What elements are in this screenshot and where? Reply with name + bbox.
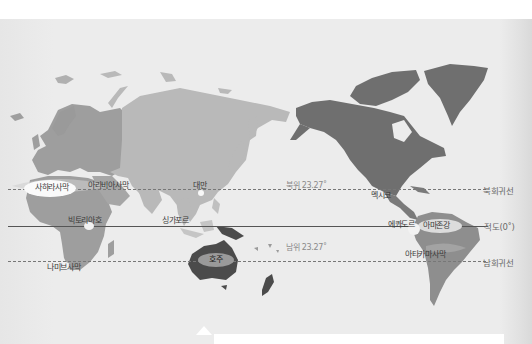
pacific-islands xyxy=(254,244,279,253)
label-tropic-of-capricorn: 남회귀선 xyxy=(483,258,514,268)
india xyxy=(138,188,162,214)
label-lat-south: 남위 23.27˚ xyxy=(286,243,327,253)
label-victoria: 빅토리아호 xyxy=(68,216,102,226)
madagascar xyxy=(108,240,114,258)
severnaya xyxy=(160,72,176,82)
label-amazon: 아마존강 xyxy=(423,221,450,231)
svalbard xyxy=(55,75,74,84)
label-australia: 호주 xyxy=(209,255,222,265)
new-guinea xyxy=(216,226,244,240)
greenland xyxy=(424,64,488,126)
label-sahara: 사하라사막 xyxy=(35,183,69,193)
tasmania xyxy=(221,285,227,290)
british-isles xyxy=(32,134,40,150)
callout-pointer xyxy=(196,326,212,335)
arctic-archipelago xyxy=(350,70,420,106)
label-arabian: 아라비아사막 xyxy=(88,181,128,191)
new-siberian xyxy=(218,88,232,94)
label-taiwan: 대만 xyxy=(193,181,206,191)
label-lat-north: 북위 23.27˚ xyxy=(286,181,327,191)
europe xyxy=(32,104,124,176)
label-atacama: 아타카마사막 xyxy=(405,250,445,260)
label-singapore: 싱가포르 xyxy=(162,216,189,226)
asia xyxy=(110,88,290,222)
novaya-zemlya xyxy=(108,86,128,108)
iceland xyxy=(10,113,24,121)
label-ecuador: 에콰도르 xyxy=(388,220,415,230)
indonesia-w xyxy=(180,228,204,238)
world-map xyxy=(0,0,532,344)
label-namib: 나미브사막 xyxy=(47,263,81,273)
franz-josef xyxy=(100,71,122,78)
label-tropic-of-cancer: 북회귀선 xyxy=(483,186,514,196)
new-zealand xyxy=(262,274,274,296)
callout-box xyxy=(214,334,504,344)
philippines xyxy=(212,198,220,214)
label-equator: 적도(0˚) xyxy=(484,222,515,232)
label-mexico: 멕시코 xyxy=(371,191,391,201)
